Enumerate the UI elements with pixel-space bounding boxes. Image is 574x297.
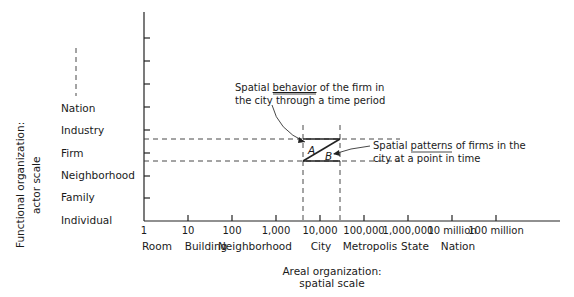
y-label-individual: Individual [61, 214, 112, 226]
behavior-arrowhead-icon [298, 137, 305, 143]
x-tick-label: 1 [141, 225, 147, 236]
x-label-neighborhood: Neighborhood [218, 240, 292, 252]
behavior-note-line2: the city through a time period [235, 95, 385, 106]
behavior-note-line1: Spatial behavior of the firm in [235, 82, 384, 93]
region-b-label: B [325, 150, 332, 162]
x-tick-label: 100 million [468, 225, 524, 236]
x-axis-title-line1: Areal organization: [282, 265, 381, 277]
y-ticks [144, 38, 150, 198]
diagram-canvas: A B Spatial behavior of the firm in the … [0, 0, 574, 297]
x-tick-label: 1,000,000 [383, 225, 434, 236]
patterns-note-line2: city at a point in time [373, 153, 480, 164]
x-axis-title-line2: spatial scale [299, 277, 364, 289]
y-axis-title-line1: Functional organization: [14, 122, 26, 248]
x-label-metropolis: Metropolis [343, 240, 398, 252]
x-label-nation: Nation [441, 240, 475, 252]
patterns-arrowhead-icon [333, 150, 340, 156]
x-label-room: Room [142, 240, 172, 252]
x-tick-labels: 1 10 100 1,000 10,000 100,000 1,000,000 … [141, 225, 524, 236]
x-tick-label: 100 [222, 225, 241, 236]
y-axis-title-line2: actor scale [30, 157, 42, 214]
region-a-label: A [307, 144, 315, 156]
x-tick-label: 100,000 [343, 225, 384, 236]
x-label-city: City [311, 240, 332, 252]
y-label-firm: Firm [61, 147, 84, 159]
y-label-nation: Nation [61, 102, 95, 114]
behavior-arrow [272, 105, 305, 142]
x-label-state: State [401, 240, 429, 252]
x-tick-label: 10 [182, 225, 195, 236]
y-category-labels: Individual Family Neighborhood Firm Indu… [61, 102, 135, 226]
x-tick-label: 1,000 [262, 225, 291, 236]
patterns-note-line1: Spatial patterns of firms in the [373, 140, 526, 151]
x-tick-label: 10,000 [303, 225, 338, 236]
x-ticks [188, 215, 496, 221]
y-label-family: Family [61, 191, 95, 203]
y-label-industry: Industry [61, 124, 104, 136]
x-category-labels: Room Building Neighborhood City Metropol… [142, 240, 475, 252]
y-label-neighborhood: Neighborhood [61, 169, 135, 181]
